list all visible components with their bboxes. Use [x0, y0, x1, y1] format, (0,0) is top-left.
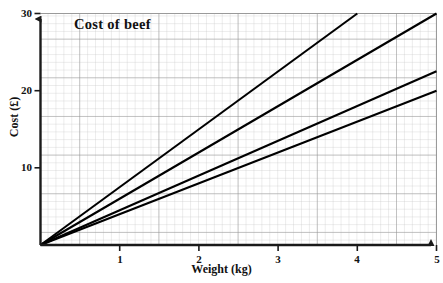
cost-of-beef-line-chart	[0, 0, 443, 283]
y-axis-title-wrapper: Cost (£)	[4, 77, 22, 157]
y-axis-title: Cost (£)	[7, 97, 21, 137]
x-axis-title: Weight (kg)	[0, 262, 443, 277]
y-axis-tick-label-30: 30	[4, 8, 32, 19]
chart-title: Cost of beef	[74, 16, 151, 33]
chart-container: Cost of beef 30 20 10 1 2 3 4 5 Weight (…	[0, 0, 443, 283]
y-axis-tick-label-10: 10	[4, 162, 32, 173]
